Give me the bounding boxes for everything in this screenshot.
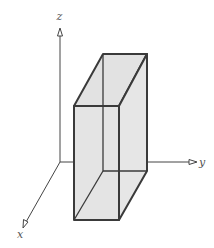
- box-diagram: z y x: [0, 0, 214, 248]
- box-front-face: [74, 106, 119, 220]
- y-arrow-icon: [189, 160, 197, 165]
- z-axis-label: z: [56, 10, 63, 23]
- z-arrow-icon: [58, 28, 63, 36]
- x-axis-label: x: [17, 228, 24, 241]
- rectangular-box: [74, 54, 147, 220]
- x-axis: [26, 162, 60, 222]
- y-axis-label: y: [198, 156, 206, 169]
